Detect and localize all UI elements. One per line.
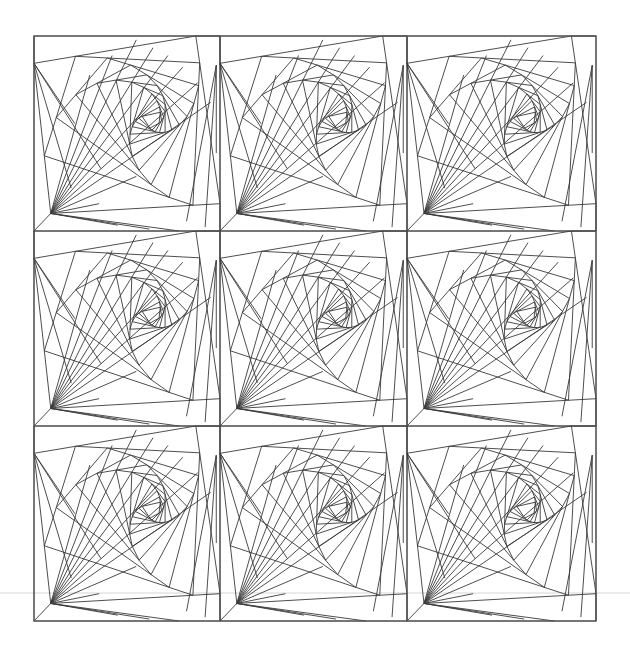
pattern-tile (407, 426, 596, 621)
pattern-tile (34, 231, 220, 426)
pattern-canvas (0, 0, 630, 657)
pattern-svg (0, 0, 630, 657)
pattern-tile (34, 36, 220, 231)
tile-grid (34, 36, 596, 621)
pattern-tile (407, 231, 596, 426)
pattern-tile (220, 231, 407, 426)
pattern-tile (220, 36, 407, 231)
pattern-tile (407, 36, 596, 231)
pattern-tile (34, 426, 220, 621)
pattern-tile (220, 426, 407, 621)
